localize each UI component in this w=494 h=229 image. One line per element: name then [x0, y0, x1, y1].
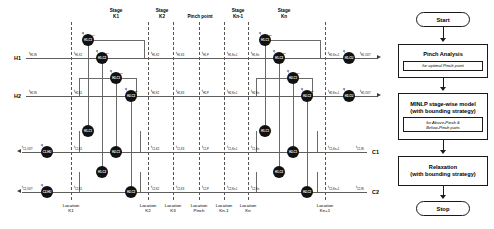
temp-tag-c1-k3: tC1,K3: [176, 145, 184, 151]
stream-line-h1: [26, 58, 378, 59]
stage-header-line2: Kn-1: [222, 14, 254, 20]
temp-tag-h2-kn-1: tH2,Kn-1: [227, 89, 238, 95]
flow-step-title: Pinch Analysis: [423, 51, 463, 58]
temp-tag-c1-in: tC1,IN: [356, 145, 364, 151]
flow-step-pinch-analysis[interactable]: Pinch Analysis for optimal Pinch point: [398, 44, 488, 78]
temp-tag-h1-k1: tH1,K1: [74, 51, 82, 57]
match-line-h2c1-k1: [116, 78, 117, 152]
exchanger-node-h2c2-kn[interactable]: H2-C2: [301, 90, 313, 102]
temp-tag-h2-p: tH2,P: [202, 89, 209, 95]
exchanger-node-h1c2-k1[interactable]: H1-C2: [96, 52, 108, 64]
match-line-h1c1-k1: [88, 40, 89, 131]
stream-arrow-c2: [17, 189, 21, 193]
location-label-line2: Kn+1: [309, 208, 341, 213]
exchanger-node-c1-h1c1-kn[interactable]: H1-C1: [259, 125, 271, 137]
location-dash-k3: [173, 22, 174, 200]
match-line-h2c2-k1: [131, 96, 132, 192]
exchanger-node-h1c1-kn[interactable]: H1-C1: [259, 34, 271, 46]
stream-arrow-h2: [377, 93, 381, 97]
flow-start-terminator[interactable]: Start: [416, 12, 470, 27]
stage-header-k2: Stage K2: [146, 8, 178, 19]
flow-arrowhead-minlp-relaxation: [440, 150, 446, 154]
temp-tag-h2-k1: tH2,K1: [74, 89, 82, 95]
match-line-h1c1-kn: [265, 40, 266, 131]
flow-arrowhead-start-pinch: [440, 38, 446, 42]
flow-step-minlp[interactable]: MINLP stage-wise model (with bounding st…: [398, 93, 488, 140]
location-dash-k2: [148, 22, 149, 200]
temp-tag-h2-in: tH2,IN: [29, 89, 37, 95]
temp-tag-c2-in: tC2,IN: [356, 185, 364, 191]
exchanger-node-h1c1-k1[interactable]: H1-C1: [82, 34, 94, 46]
temp-tag-h1-k2: tH1,K2: [151, 51, 159, 57]
stage-header-line1: Pinch point: [178, 14, 222, 20]
stage-header-kn: Stage Kn: [268, 8, 300, 19]
utility-node-c2-hu[interactable]: C2-HU: [41, 186, 53, 198]
stage-header-line2: K2: [146, 14, 178, 20]
flow-step-title-line2: (with bounding strategy): [410, 171, 475, 177]
stream-label-c1: C1: [372, 149, 379, 155]
exchanger-node-c2-h1c2-k1[interactable]: H1-C2: [96, 166, 108, 178]
match-line-h2c1-kn: [293, 78, 294, 152]
flow-step-subtitle-line2: Below-Pinch parts: [426, 125, 460, 130]
flow-stop-terminator[interactable]: Stop: [416, 201, 470, 216]
stream-line-c2: [22, 192, 367, 193]
exchanger-node-h2c2-k1[interactable]: H2-C2: [125, 90, 137, 102]
location-dash-kn-1: [224, 22, 225, 200]
temp-tag-c2-k2: tC2,K2: [151, 185, 159, 191]
exchanger-node-c1-h2c1-kn[interactable]: H2-C1: [287, 146, 299, 158]
solution-flowchart: Start Pinch Analysis for optimal Pinch p…: [392, 0, 494, 229]
temp-tag-c2-k1: tC2,K1: [74, 185, 82, 191]
location-label-line2: K1: [55, 208, 87, 213]
exchanger-node-h2c1-k1[interactable]: H2-C1: [110, 72, 122, 84]
match-line-h1c2-kn: [279, 58, 280, 172]
temp-tag-c1-k1: tC1,K1: [74, 145, 82, 151]
location-dash-kn+1: [325, 22, 326, 200]
utility-node-h1-cu[interactable]: H1-CU: [343, 52, 355, 64]
exchanger-node-c2-h2c2-k1[interactable]: H2-C2: [125, 186, 137, 198]
temp-tag-h1-p: tH1,P: [202, 51, 209, 57]
match-line-h1c2-k1: [102, 58, 103, 172]
location-label-kn: Location Kn: [232, 203, 264, 214]
temp-tag-c2-k3: tC2,K3: [176, 185, 184, 191]
stage-header-k1: Stage K1: [100, 8, 132, 19]
flow-step-title-line1: MINLP stage-wise model: [410, 101, 475, 107]
temp-tag-h2-k2: tH2,K2: [151, 89, 159, 95]
hen-superstructure: Stage K1 Stage K2 Pinch point Stage Kn-1…: [0, 0, 390, 229]
temp-tag-h2-kn+1: tH2,Kn+1: [328, 89, 339, 95]
figure-root: Stage K1 Stage K2 Pinch point Stage Kn-1…: [0, 0, 494, 229]
flow-step-title-line2: (with bounding strategy): [410, 108, 475, 114]
stream-label-c2: C2: [372, 189, 379, 195]
flow-step-title: Relaxation (with bounding strategy): [410, 164, 475, 178]
exchanger-node-c1-h2c1-k1[interactable]: H2-C1: [110, 146, 122, 158]
location-dash-kn: [248, 22, 249, 200]
utility-node-h2-cu[interactable]: H2-CU: [343, 90, 355, 102]
temp-tag-h2-k3: tH2,K3: [176, 89, 184, 95]
temp-tag-h1-in: tH1,IN: [29, 51, 37, 57]
stage-header-pinch-point: Pinch point: [178, 14, 222, 20]
utility-node-c1-hu[interactable]: C1-HU: [41, 146, 53, 158]
flow-arrowhead-relaxation-stop: [440, 195, 446, 199]
temp-tag-c2-out: tC2,OUT: [22, 185, 33, 191]
location-label-k1: Location K1: [55, 203, 87, 214]
exchanger-node-c2-h1c2-kn[interactable]: H1-C2: [273, 166, 285, 178]
temp-tag-c2-kn-1: tC2,Kn-1: [227, 185, 238, 191]
exchanger-node-c2-h2c2-kn[interactable]: H2-C2: [301, 186, 313, 198]
location-dash-k1: [71, 22, 72, 200]
temp-tag-c1-k2: tC1,K2: [151, 145, 159, 151]
location-label-kn+1: Location Kn+1: [309, 203, 341, 214]
flow-step-subtitle: for Above-Pinch & Below-Pinch parts: [403, 117, 483, 132]
exchanger-node-c1-h1c1-k1[interactable]: H1-C1: [82, 125, 94, 137]
exchanger-node-h2c1-kn[interactable]: H2-C1: [287, 72, 299, 84]
flow-step-title-line1: Relaxation: [429, 164, 457, 170]
location-label-line2: Kn: [232, 208, 264, 213]
temp-tag-c1-kn: tC1,Kn: [251, 145, 259, 151]
match-line-h2c2-kn: [307, 96, 308, 192]
exchanger-node-h1c2-kn[interactable]: H1-C2: [273, 52, 285, 64]
stream-arrow-c1: [17, 149, 21, 153]
temp-tag-h2-out: tH2,OUT: [360, 89, 371, 95]
temp-tag-c1-out: tC1,OUT: [22, 145, 33, 151]
flow-step-subtitle: for optimal Pinch point: [403, 61, 483, 71]
stream-line-h2: [26, 96, 378, 97]
flow-step-relaxation[interactable]: Relaxation (with bounding strategy): [398, 156, 488, 186]
stream-line-c1: [22, 152, 367, 153]
